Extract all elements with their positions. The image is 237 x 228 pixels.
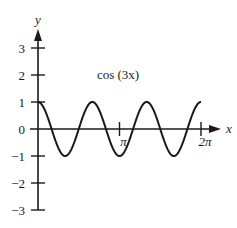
cosine-chart: 3210−1−2−3π2π cos (3x) x y (0, 0, 237, 228)
y-tick-label: −2 (11, 176, 25, 191)
y-tick-label: −3 (11, 203, 25, 218)
x-axis-arrow-icon (209, 125, 221, 133)
y-tick-label: −1 (11, 149, 25, 164)
y-axis-label: y (33, 12, 41, 27)
y-tick-label: 2 (19, 68, 26, 83)
x-axis-label: x (225, 121, 232, 136)
y-tick-label: 0 (19, 122, 26, 137)
y-tick-label: 3 (19, 41, 26, 56)
y-axis-arrow-icon (34, 29, 42, 41)
y-tick-label: 1 (19, 95, 26, 110)
axes (30, 29, 221, 210)
x-tick-label: 2π (198, 134, 212, 149)
function-label: cos (3x) (97, 67, 139, 82)
chart-canvas: 3210−1−2−3π2π cos (3x) x y (0, 0, 237, 228)
